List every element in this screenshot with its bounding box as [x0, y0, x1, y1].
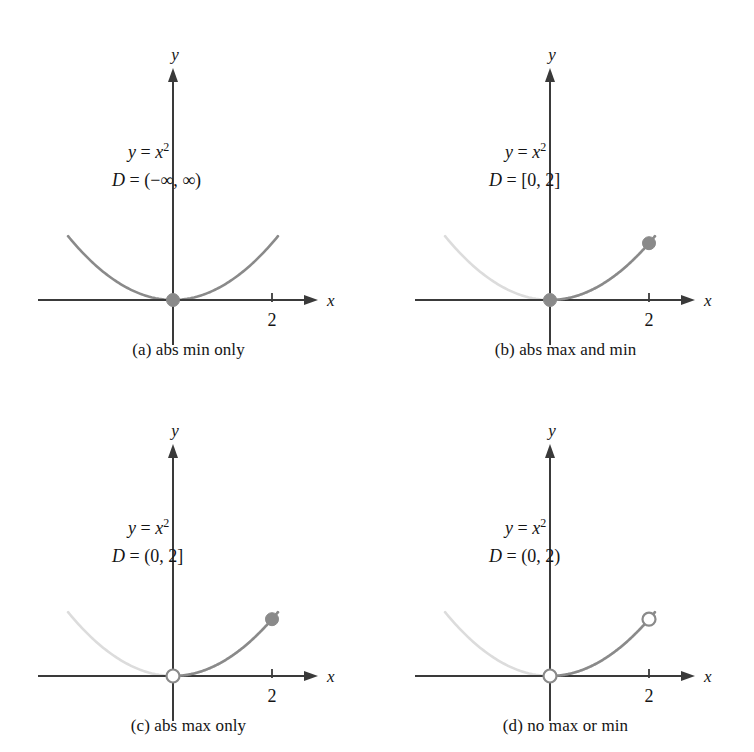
panel-caption: (d) no max or min: [377, 716, 754, 736]
parabola-curve-highlighted: [173, 612, 278, 676]
equation-label: y = x2: [503, 140, 546, 162]
y-axis-label: y: [169, 45, 179, 64]
domain-label: D = [0, 2]: [488, 170, 560, 190]
x-tick-label-2: 2: [268, 310, 277, 330]
panel-caption: (b) abs max and min: [377, 340, 754, 360]
x-axis-label: x: [326, 291, 335, 310]
y-axis-label: y: [546, 421, 556, 440]
origin-min-point: [544, 294, 557, 307]
x-tick-label-2: 2: [645, 686, 654, 706]
x-axis-label: x: [703, 667, 712, 686]
domain-label: D = (0, 2]: [111, 546, 183, 567]
origin-excluded-point: [544, 670, 557, 683]
origin-excluded-point: [167, 670, 180, 683]
equation-label: y = x2: [126, 140, 169, 162]
parabola-extrema-figure: 2xyy = x2D = (−∞, ∞)(a) abs min only2xyy…: [0, 0, 754, 752]
domain-label: D = (−∞, ∞): [111, 170, 201, 191]
panel-caption: (a) abs min only: [0, 340, 377, 360]
x-axis-label: x: [326, 667, 335, 686]
x-axis-arrow-icon: [304, 295, 318, 305]
panel-a: 2xyy = x2D = (−∞, ∞)(a) abs min only: [0, 0, 377, 376]
x-axis-label: x: [703, 291, 712, 310]
x-tick-label-2: 2: [645, 310, 654, 330]
x-axis-arrow-icon: [304, 671, 318, 681]
right-max-point: [643, 237, 656, 250]
x-axis-arrow-icon: [681, 295, 695, 305]
origin-min-point: [167, 294, 180, 307]
parabola-curve-highlighted: [550, 236, 655, 300]
y-axis-label: y: [169, 421, 179, 440]
panel-d: 2xyy = x2D = (0, 2)(d) no max or min: [377, 376, 754, 752]
panel-c: 2xyy = x2D = (0, 2](c) abs max only: [0, 376, 377, 752]
domain-label: D = (0, 2): [488, 546, 560, 567]
x-axis-arrow-icon: [681, 671, 695, 681]
parabola-curve-highlighted: [550, 612, 655, 676]
right-excluded-point: [643, 613, 656, 626]
y-axis-arrow-icon: [168, 444, 178, 458]
y-axis-label: y: [546, 45, 556, 64]
equation-label: y = x2: [126, 516, 169, 538]
y-axis-arrow-icon: [168, 68, 178, 82]
equation-label: y = x2: [503, 516, 546, 538]
y-axis-arrow-icon: [545, 444, 555, 458]
panel-caption: (c) abs max only: [0, 716, 377, 736]
x-tick-label-2: 2: [268, 686, 277, 706]
y-axis-arrow-icon: [545, 68, 555, 82]
panel-b: 2xyy = x2D = [0, 2](b) abs max and min: [377, 0, 754, 376]
right-max-point: [266, 613, 279, 626]
